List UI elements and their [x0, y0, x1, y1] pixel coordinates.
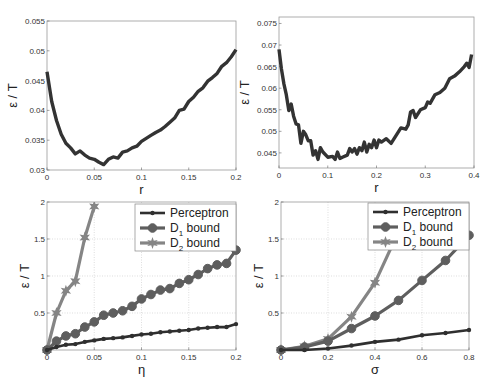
- x-tick-label: 0.2: [371, 171, 383, 180]
- x-tick-label: 0.2: [322, 353, 334, 362]
- marker-circle: [222, 259, 231, 268]
- y-tick-label: 0.035: [25, 136, 46, 145]
- marker-circle: [381, 223, 390, 232]
- y-tick-label: 1: [275, 272, 280, 281]
- y-tick-label: 0.5: [34, 309, 46, 318]
- marker-dot: [215, 325, 219, 329]
- marker-dot: [396, 337, 400, 341]
- y-axis-label: ε / T: [5, 83, 20, 108]
- marker-dot: [279, 348, 283, 352]
- x-tick-label: 0.8: [463, 353, 475, 362]
- chart-top-right: 00.10.20.30.40.0450.050.0550.060.0650.07…: [237, 17, 480, 195]
- x-tick-label: 0.1: [322, 171, 334, 180]
- y-axis-label: ε / T: [17, 264, 32, 289]
- y-tick-label: 2: [275, 198, 280, 207]
- marker-dot: [383, 210, 387, 214]
- marker-circle: [394, 296, 403, 305]
- x-tick-label: 0.2: [230, 173, 242, 182]
- y-axis-label: ε / T: [251, 264, 266, 289]
- marker-dot: [45, 348, 49, 352]
- marker-circle: [324, 337, 333, 346]
- y-axis-label: ε / T: [237, 80, 252, 105]
- x-tick-label: 0.05: [86, 173, 102, 182]
- marker-circle: [90, 318, 99, 327]
- marker-dot: [234, 322, 238, 326]
- x-tick-label: 0.2: [230, 353, 242, 362]
- marker-dot: [326, 346, 330, 350]
- x-tick-label: 0.15: [181, 353, 197, 362]
- marker-circle: [147, 290, 156, 299]
- marker-circle: [371, 312, 380, 321]
- marker-circle: [52, 337, 61, 346]
- y-tick-label: 1.5: [34, 235, 46, 244]
- marker-circle: [62, 332, 71, 341]
- y-tick-label: 0.075: [257, 19, 278, 28]
- marker-circle: [347, 324, 356, 333]
- figure: 00.050.10.150.20.030.0350.040.0450.050.0…: [0, 0, 490, 389]
- marker-circle: [213, 261, 222, 270]
- marker-dot: [139, 332, 143, 336]
- legend-label: Perceptron: [403, 205, 462, 219]
- y-tick-label: 0.065: [257, 63, 278, 72]
- x-tick-label: 0.15: [181, 173, 197, 182]
- marker-dot: [302, 348, 306, 352]
- marker-circle: [441, 256, 450, 265]
- legend: PerceptronD1 boundD2 bound: [368, 203, 469, 252]
- marker-dot: [158, 330, 162, 334]
- marker-circle: [128, 302, 137, 311]
- marker-circle: [99, 311, 108, 320]
- axes-box: [47, 21, 236, 170]
- marker-circle: [118, 306, 127, 315]
- y-tick-label: 0.045: [25, 77, 46, 86]
- marker-circle: [418, 276, 427, 285]
- x-tick-label: 0.3: [420, 171, 432, 180]
- marker-dot: [205, 326, 209, 330]
- marker-circle: [148, 224, 157, 233]
- y-tick-label: 0.055: [25, 17, 46, 26]
- y-tick-label: 0.06: [261, 84, 277, 93]
- y-tick-label: 0.05: [261, 127, 277, 136]
- marker-dot: [130, 334, 134, 338]
- marker-dot: [149, 332, 153, 336]
- y-tick-label: 1.5: [268, 235, 280, 244]
- marker-circle: [137, 295, 146, 304]
- marker-star: [80, 232, 90, 244]
- marker-circle: [109, 309, 118, 318]
- plot-area: [47, 50, 236, 165]
- series-line-error: [279, 49, 472, 159]
- y-tick-label: 0.03: [29, 166, 45, 175]
- marker-dot: [111, 336, 115, 340]
- marker-circle: [71, 329, 80, 338]
- marker-dot: [177, 329, 181, 333]
- marker-circle: [203, 264, 212, 273]
- marker-dot: [64, 343, 68, 347]
- marker-dot: [196, 326, 200, 330]
- marker-circle: [194, 270, 203, 279]
- chart-bottom-left: 00.050.10.150.20.511.52ηε / TPerceptronD…: [17, 198, 242, 377]
- x-tick-label: 0: [45, 173, 50, 182]
- x-axis-label: η: [138, 362, 145, 377]
- x-tick-label: 0.1: [136, 353, 148, 362]
- marker-dot: [120, 335, 124, 339]
- marker-dot: [54, 345, 58, 349]
- marker-circle: [175, 279, 184, 288]
- marker-dot: [349, 343, 353, 347]
- marker-dot: [224, 325, 228, 329]
- chart-top-left: 00.050.10.150.20.030.0350.040.0450.050.0…: [5, 17, 242, 197]
- marker-dot: [102, 337, 106, 341]
- x-axis-label: r: [374, 180, 379, 195]
- x-tick-label: 0.1: [136, 173, 148, 182]
- x-tick-label: 0.4: [369, 353, 381, 362]
- y-tick-label: 0.055: [257, 106, 278, 115]
- marker-dot: [187, 328, 191, 332]
- marker-dot: [168, 329, 172, 333]
- x-tick-label: 0.6: [416, 353, 428, 362]
- y-tick-label: 0.045: [257, 149, 278, 158]
- marker-circle: [156, 286, 165, 295]
- marker-circle: [166, 284, 175, 293]
- series-line-error: [47, 50, 236, 165]
- marker-dot: [150, 211, 154, 215]
- marker-dot: [373, 340, 377, 344]
- marker-dot: [92, 338, 96, 342]
- y-tick-label: 0.04: [29, 106, 45, 115]
